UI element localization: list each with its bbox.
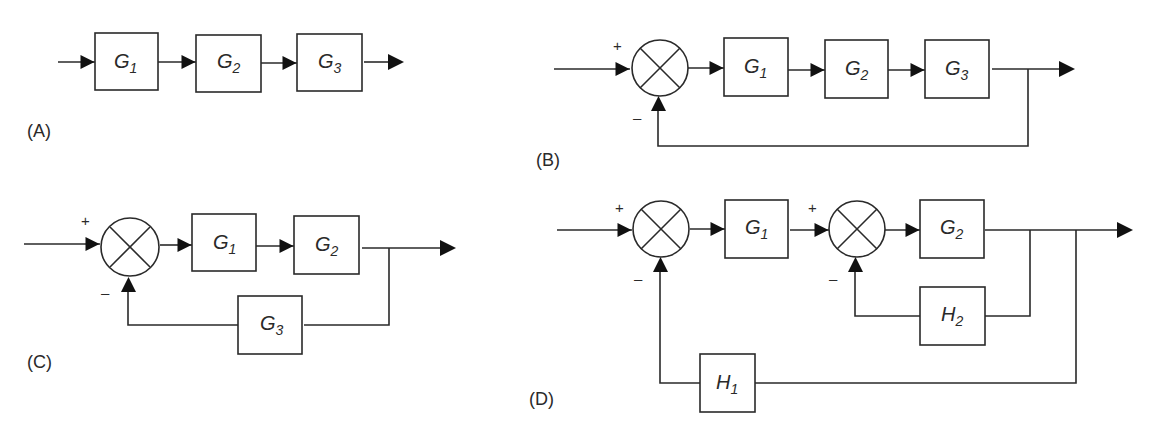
block-subscript: 1 — [130, 60, 138, 76]
block-g2: G2 — [920, 200, 984, 258]
block-diagrams-canvas: G1 G2 G3 (A) + – G1 — [0, 0, 1156, 433]
output-arrow-icon — [1117, 222, 1133, 238]
arrow-icon — [616, 62, 630, 76]
arrow-icon — [280, 239, 294, 253]
outer-feedback-path — [755, 230, 1076, 383]
inner-feedback-path — [985, 230, 1030, 316]
arrow-icon — [815, 223, 829, 237]
arrow-icon — [182, 55, 196, 69]
block-label: G — [940, 216, 956, 238]
arrow-icon — [653, 257, 668, 272]
block-label: G — [845, 57, 861, 79]
block-subscript: 3 — [276, 322, 284, 338]
feedback-path — [128, 280, 238, 325]
block-label: H — [941, 303, 956, 325]
block-label: G — [114, 50, 130, 72]
block-g1: G1 — [724, 38, 788, 96]
plus-sign: + — [808, 199, 817, 216]
output-arrow-icon — [388, 54, 404, 70]
block-subscript: 3 — [961, 67, 969, 83]
diagram-b: + – G1 G2 G3 (B) — [536, 37, 1075, 170]
block-g2: G2 — [825, 40, 888, 98]
block-label: G — [217, 50, 233, 72]
block-g1: G1 — [192, 214, 256, 271]
block-subscript: 3 — [334, 60, 342, 76]
arrow-icon — [618, 223, 632, 237]
block-label: G — [745, 216, 761, 238]
summing-junction-1 — [633, 201, 689, 257]
minus-sign: – — [634, 270, 643, 287]
diagram-tag: (B) — [536, 150, 560, 170]
block-label: G — [945, 57, 961, 79]
diagram-tag: (C) — [27, 352, 52, 372]
minus-sign: – — [633, 109, 642, 126]
output-arrow-icon — [1059, 61, 1075, 77]
block-label: G — [744, 55, 760, 77]
block-label: G — [315, 233, 331, 255]
diagram-tag: (A) — [27, 121, 51, 141]
diagram-c: + – G1 G2 G3 (C) — [24, 212, 456, 372]
arrow-icon — [848, 257, 863, 272]
block-subscript: 2 — [330, 243, 339, 259]
arrow-icon — [81, 55, 95, 69]
minus-sign: – — [829, 270, 838, 287]
block-subscript: 2 — [860, 67, 869, 83]
arrow-icon — [283, 56, 297, 70]
block-g2: G2 — [196, 35, 261, 92]
arrow-icon — [811, 63, 825, 77]
arrow-icon — [710, 61, 724, 75]
arrow-icon — [121, 277, 136, 292]
feedback-block-h1: H1 — [700, 354, 755, 412]
block-g1: G1 — [95, 33, 158, 90]
arrow-icon — [86, 237, 100, 251]
arrow-icon — [178, 238, 192, 252]
block-label: G — [260, 312, 276, 334]
summing-junction-2 — [829, 201, 885, 257]
output-arrow-icon — [440, 240, 456, 256]
block-g2: G2 — [294, 216, 359, 274]
diagram-a: G1 G2 G3 (A) — [27, 33, 404, 141]
outer-feedback-path — [660, 261, 700, 383]
summing-junction — [632, 40, 688, 96]
arrow-icon — [711, 222, 725, 236]
block-label: G — [318, 50, 334, 72]
summing-junction — [101, 218, 159, 276]
block-subscript: 1 — [730, 381, 738, 397]
block-g3: G3 — [925, 40, 989, 98]
block-subscript: 1 — [760, 65, 768, 81]
block-subscript: 2 — [954, 313, 963, 329]
arrow-icon — [906, 223, 920, 237]
block-label: H — [716, 371, 731, 393]
feedback-block-h2: H2 — [920, 287, 985, 345]
arrow-icon — [911, 63, 925, 77]
plus-sign: + — [81, 212, 90, 229]
block-g1: G1 — [725, 200, 788, 258]
block-g3: G3 — [297, 34, 362, 91]
plus-sign: + — [615, 199, 624, 216]
block-subscript: 2 — [955, 226, 964, 242]
arrow-icon — [651, 96, 666, 111]
block-subscript: 1 — [761, 226, 769, 242]
minus-sign: – — [101, 284, 110, 301]
plus-sign: + — [613, 37, 622, 54]
diagram-tag: (D) — [529, 389, 554, 409]
diagram-d: + – G1 + – G2 H2 — [529, 199, 1133, 412]
block-label: G — [213, 231, 229, 253]
block-subscript: 2 — [232, 60, 241, 76]
block-subscript: 1 — [229, 241, 237, 257]
inner-feedback-path — [855, 261, 920, 316]
feedback-block-g3: G3 — [238, 296, 302, 354]
